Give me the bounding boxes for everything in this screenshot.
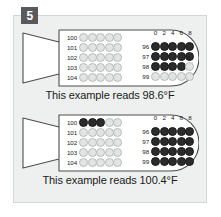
right-2-dot-row (151, 147, 194, 156)
left-1-dot-row (79, 53, 122, 62)
left-1-dot-row (79, 43, 122, 52)
right-2-column-headers: 02468 (151, 114, 194, 122)
left-2-dot-empty (113, 128, 122, 137)
left-1-dot-empty (113, 43, 122, 52)
right-1-row-label: 99 (133, 72, 151, 81)
right-2-dot-filled (151, 137, 160, 146)
left-2-dot-empty (79, 158, 88, 167)
left-1-row-label: 101 (61, 43, 79, 52)
left-dot-grid-1: 100101102103104 (61, 29, 129, 87)
left-1-row: 102 (61, 53, 122, 62)
right-1-row: 98 (133, 62, 194, 71)
illustration-root: 5 100101102103104 0246896979899 °F This … (0, 0, 221, 217)
right-2-dot-filled (168, 147, 177, 156)
right-2-dot-filled (168, 157, 177, 166)
right-1-dot-filled (151, 42, 160, 51)
right-1-column-headers: 02468 (151, 29, 194, 37)
right-2-row: 98 (133, 147, 194, 156)
left-2-dot-empty (113, 138, 122, 147)
right-1-dot-row (151, 42, 194, 51)
right-1-row-label: 96 (133, 42, 151, 51)
left-2-dot-empty (96, 138, 105, 147)
right-1-dot-empty (185, 62, 194, 71)
step-number-badge: 5 (21, 7, 38, 24)
right-2-dot-filled (168, 127, 177, 136)
left-2-row-label: 101 (61, 128, 79, 137)
thermometer-strip-1: 100101102103104 0246896979899 °F (21, 29, 199, 87)
left-1-dot-row (79, 73, 122, 82)
left-2-dot-row (79, 158, 122, 167)
left-1-dot-empty (96, 63, 105, 72)
left-2-dot-row (79, 128, 122, 137)
left-1-row-label: 100 (61, 33, 79, 42)
left-1-dot-empty (96, 33, 105, 42)
left-2-row: 101 (61, 128, 122, 137)
right-2-dot-filled (168, 137, 177, 146)
right-1-dot-filled (151, 62, 160, 71)
left-2-dot-row (79, 138, 122, 147)
left-2-row-label: 103 (61, 148, 79, 157)
left-1-dot-empty (113, 33, 122, 42)
right-1-dot-filled (168, 42, 177, 51)
right-2-dot-filled (151, 147, 160, 156)
left-1-dot-empty (96, 43, 105, 52)
left-1-dot-empty (79, 33, 88, 42)
left-1-dot-empty (113, 63, 122, 72)
left-1-dot-empty (96, 53, 105, 62)
right-2-row-label: 98 (133, 147, 151, 156)
left-2-dot-filled (79, 118, 88, 127)
left-2-dot-row (79, 118, 122, 127)
left-1-dot-empty (96, 73, 105, 82)
left-2-row: 100 (61, 118, 122, 127)
left-dot-grid-2: 100101102103104 (61, 114, 129, 172)
right-2-dot-filled (185, 127, 194, 136)
right-1-dot-filled (168, 62, 177, 71)
left-2-dot-filled (96, 118, 105, 127)
right-2-dot-filled (151, 127, 160, 136)
right-1-dot-filled (151, 52, 160, 61)
right-2-dot-filled (185, 157, 194, 166)
right-2-dot-row (151, 127, 194, 136)
left-1-row-label: 102 (61, 53, 79, 62)
caption-1: This example reads 98.6°F (13, 89, 207, 101)
left-1-row: 103 (61, 63, 122, 72)
left-1-dot-empty (113, 73, 122, 82)
left-1-dot-empty (79, 43, 88, 52)
right-2-dot-filled (185, 147, 194, 156)
left-2-row: 104 (61, 158, 122, 167)
left-1-dot-empty (79, 63, 88, 72)
right-2-dot-row (151, 157, 194, 166)
left-2-dot-empty (79, 128, 88, 137)
unit-label-1: °F (184, 55, 190, 61)
right-2-row-label: 97 (133, 137, 151, 146)
left-2-row-label: 100 (61, 118, 79, 127)
left-1-dot-row (79, 63, 122, 72)
left-2-dot-empty (96, 158, 105, 167)
right-1-dot-filled (168, 52, 177, 61)
right-2-row: 99 (133, 157, 194, 166)
right-1-dot-row (151, 72, 194, 81)
left-1-dot-empty (79, 53, 88, 62)
left-2-dot-empty (79, 138, 88, 147)
left-1-row: 101 (61, 43, 122, 52)
right-2-row-label: 99 (133, 157, 151, 166)
left-1-row-label: 104 (61, 73, 79, 82)
left-2-row: 103 (61, 148, 122, 157)
left-1-row: 100 (61, 33, 122, 42)
right-2-row-label: 96 (133, 127, 151, 136)
thermometer-strip-2: 100101102103104 0246896979899 °F (21, 114, 199, 172)
left-2-dot-empty (79, 148, 88, 157)
left-2-dot-empty (113, 158, 122, 167)
right-1-dot-filled (185, 42, 194, 51)
left-1-dot-row (79, 33, 122, 42)
right-1-row: 96 (133, 42, 194, 51)
left-2-dot-empty (113, 118, 122, 127)
right-1-row: 99 (133, 72, 194, 81)
right-2-column-header-8: 8 (185, 114, 194, 122)
left-2-row-label: 102 (61, 138, 79, 147)
left-1-row-label: 103 (61, 63, 79, 72)
right-1-dot-empty (151, 72, 160, 81)
left-2-row: 102 (61, 138, 122, 147)
right-1-dot-empty (185, 72, 194, 81)
right-1-dot-row (151, 62, 194, 71)
